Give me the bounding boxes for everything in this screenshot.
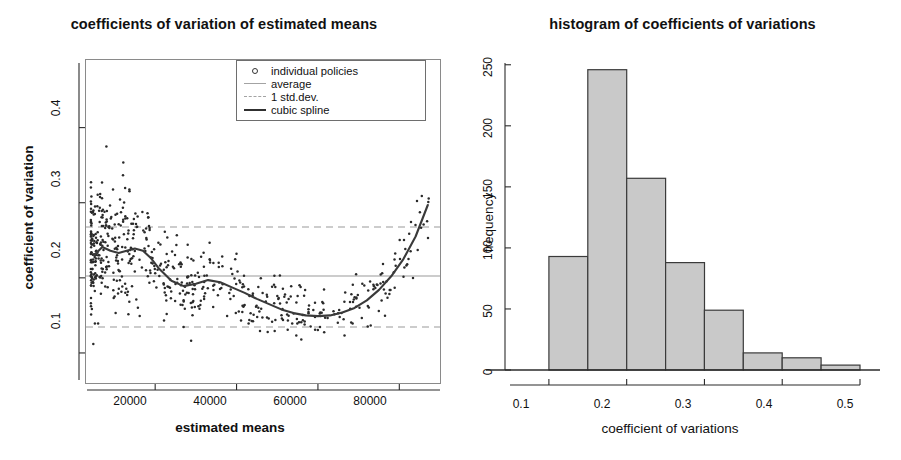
histogram-bars-group [549, 70, 860, 370]
legend-label-2: 1 std.dev. [268, 91, 319, 103]
scatter-x-tickmarks [155, 384, 399, 390]
scatter-points-group [90, 145, 430, 345]
legend-row-cubic-spline: cubic spline [242, 103, 418, 116]
histogram-x-tickmarks [549, 379, 860, 385]
legend-row-average: average [242, 77, 418, 90]
scatter-panel: coefficients of variation of estimated m… [0, 0, 460, 460]
histogram-bar [743, 353, 782, 370]
scatter-y-tickmarks [79, 128, 85, 353]
legend-label-1: average [268, 78, 311, 90]
legend-row-std-dev: 1 std.dev. [242, 90, 418, 103]
figure-root: coefficients of variation of estimated m… [0, 0, 901, 460]
histogram-bar [549, 257, 588, 371]
solid-light-line-icon [242, 83, 268, 84]
histogram-bar [627, 178, 666, 370]
histogram-plot-area [460, 0, 901, 460]
legend-label-3: cubic spline [268, 104, 329, 116]
legend-label-0: individual policies [268, 65, 358, 77]
histogram-bar [588, 70, 627, 370]
histogram-bar [704, 310, 743, 370]
solid-dark-line-icon [242, 109, 268, 111]
legend-row-individual-policies: individual policies [242, 64, 418, 77]
cubic-spline-curve [94, 205, 428, 316]
scatter-legend: individual policies average 1 std.dev. c… [236, 60, 426, 121]
open-circle-icon [242, 68, 268, 74]
histogram-y-tickmarks [505, 65, 511, 370]
histogram-bar [666, 263, 705, 370]
histogram-panel: histogram of coefficients of variations … [460, 0, 901, 460]
dashed-light-line-icon [242, 96, 268, 97]
histogram-bar [782, 358, 821, 370]
